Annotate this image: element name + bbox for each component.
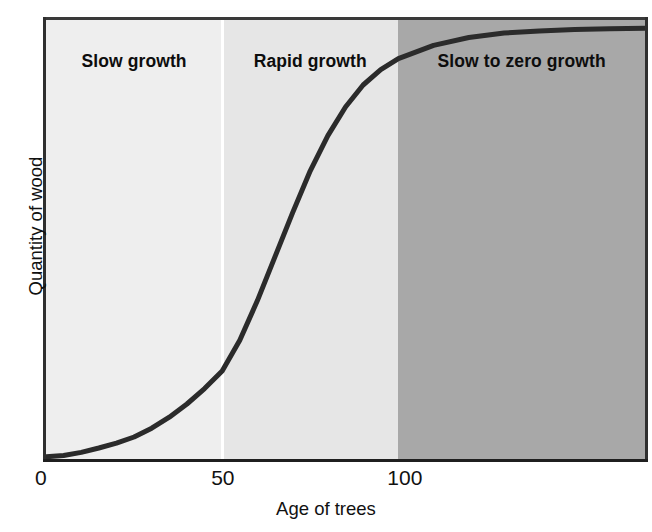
growth-curve-figure: Slow growth Rapid growth Slow to zero gr… xyxy=(0,0,652,532)
xtick-label-0: 0 xyxy=(35,466,47,490)
plot-area: Slow growth Rapid growth Slow to zero gr… xyxy=(46,19,645,459)
y-axis-title-wrapper: Quantity of wood xyxy=(25,106,47,346)
x-axis-title: Age of trees xyxy=(0,498,652,520)
growth-curve xyxy=(46,19,645,459)
axis-right-line xyxy=(645,17,648,462)
axis-bottom-line xyxy=(43,459,648,462)
xtick-label-50: 50 xyxy=(211,466,234,490)
curve-line xyxy=(46,28,645,457)
xtick-label-100: 100 xyxy=(387,466,422,490)
y-axis-title: Quantity of wood xyxy=(25,157,46,296)
axis-top-line xyxy=(46,17,645,20)
